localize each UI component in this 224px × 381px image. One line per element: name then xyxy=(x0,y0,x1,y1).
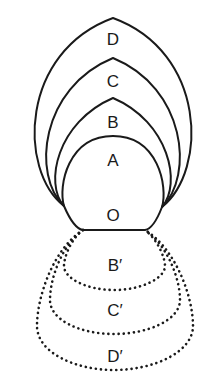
label-c: C xyxy=(107,72,119,91)
label-group: D C B A O B′ C′ D′ xyxy=(106,30,122,366)
figure-root: D C B A O B′ C′ D′ xyxy=(0,0,224,381)
label-c-prime: C′ xyxy=(107,301,122,320)
label-o: O xyxy=(106,206,119,225)
nested-curves-diagram: D C B A O B′ C′ D′ xyxy=(0,0,224,381)
label-d-prime: D′ xyxy=(107,347,122,366)
curve-a-path xyxy=(62,136,163,207)
label-a: A xyxy=(107,151,119,170)
label-b-prime: B′ xyxy=(108,256,123,275)
label-d: D xyxy=(107,30,119,49)
label-b: B xyxy=(107,113,118,132)
